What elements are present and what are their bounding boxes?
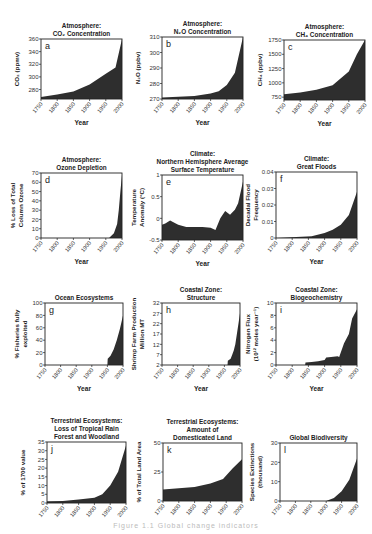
y-tick-label: 340 [28, 49, 39, 55]
y-tick-label: 60 [32, 179, 39, 185]
panel-letter: c [288, 42, 293, 52]
y-tick-label: 10 [32, 226, 39, 232]
y-tick-label: 32 [153, 300, 160, 306]
y-tick-label: 310 [149, 34, 160, 40]
data-area [284, 40, 365, 100]
y-tick-label: 1 [156, 172, 160, 178]
x-tick-label: 2000 [232, 503, 245, 516]
chart-title: Coastal Zone: [180, 286, 222, 293]
panel-letter: f [280, 174, 283, 184]
x-axis-label: Year [196, 260, 210, 267]
x-axis-label: Year [77, 385, 91, 392]
x-axis-label: Year [310, 385, 324, 392]
y-tick-label: 20 [38, 465, 45, 471]
y-tick-label: 30 [271, 440, 278, 446]
chart-title: Global Biodiversity [289, 434, 348, 442]
panel-letter: e [166, 177, 171, 187]
x-axis-label: Year [75, 258, 89, 265]
x-tick-label: 1900 [80, 101, 93, 114]
chart-title: Atmosphere: [183, 20, 222, 28]
y-tick-label: 27 [153, 311, 160, 317]
y-tick-label: 290 [149, 65, 160, 71]
x-tick-label: 1950 [331, 367, 344, 380]
x-tick-label: 1850 [185, 503, 198, 516]
x-tick-label: 2000 [112, 101, 125, 114]
y-axis-label: (10¹² moles year⁻¹) [252, 307, 259, 362]
y-axis-label: exploited [21, 320, 28, 347]
y-tick-label: 750 [271, 94, 282, 100]
y-tick-label: 7 [156, 352, 160, 358]
y-tick-label: 10 [271, 479, 278, 485]
y-tick-label: 40 [32, 198, 39, 204]
y-tick-label: 25 [38, 457, 45, 463]
chart-title: Forest and Woodland [54, 433, 119, 440]
panel-letter: l [284, 445, 286, 455]
y-tick-label: 0.03 [262, 186, 274, 192]
x-tick-label: 1950 [216, 503, 229, 516]
chart-title: Northern Hemisphere Average [157, 158, 249, 166]
y-axis-label: Column Ozone [17, 183, 24, 227]
x-tick-label: 2000 [347, 240, 360, 253]
y-tick-label: 40 [36, 337, 43, 343]
x-tick-label: 1900 [80, 240, 93, 253]
x-tick-label: 1900 [316, 503, 329, 516]
y-tick-label: 6 [270, 325, 274, 331]
data-area [276, 309, 357, 365]
y-tick-label: 300 [28, 74, 39, 80]
x-tick-label: 1900 [315, 240, 328, 253]
chart-title: Domesticated Land [173, 434, 232, 441]
x-tick-label: 1900 [201, 101, 214, 114]
chart-title: CH₄ Concentration [296, 31, 353, 38]
x-tick-label: 1800 [169, 503, 182, 516]
y-tick-label: 20 [32, 217, 39, 223]
x-tick-label: 1750 [152, 101, 165, 114]
y-tick-label: 50 [32, 189, 39, 195]
y-tick-label: 280 [149, 81, 160, 87]
chart-panel-a: Atmosphere:CO₂ Concentrationa28030032034… [13, 22, 125, 126]
x-tick-label: 1900 [201, 242, 214, 255]
x-tick-label: 1750 [37, 505, 50, 518]
x-tick-label: 1750 [266, 367, 279, 380]
chart-title: Surface Temperature [171, 166, 235, 174]
x-tick-label: 1800 [286, 503, 299, 516]
y-tick-label: 50 [154, 440, 161, 446]
x-tick-label: 1800 [168, 242, 181, 255]
x-tick-label: 1750 [266, 240, 279, 253]
x-tick-label: 1850 [69, 505, 82, 518]
chart-panel-e: Climate:Northern Hemisphere AverageSurfa… [130, 150, 249, 267]
x-tick-label: 1850 [185, 101, 198, 114]
data-area [276, 192, 357, 238]
y-tick-label: 0.02 [262, 202, 274, 208]
y-tick-label: 360 [28, 36, 39, 42]
x-axis-label: Year [75, 119, 89, 126]
y-tick-label: 100 [32, 300, 43, 306]
y-tick-label: 30 [38, 448, 45, 454]
x-tick-label: 1800 [51, 367, 64, 380]
chart-title: Terrestrial Ecosystems: [167, 418, 239, 426]
y-tick-label: 22 [153, 321, 160, 327]
panel-letter: j [50, 444, 53, 454]
panel-letter: a [45, 41, 50, 51]
x-axis-label: Year [318, 120, 332, 127]
y-tick-label: 1000 [268, 80, 282, 86]
data-area [162, 313, 240, 365]
y-axis-label: (thousand) [256, 456, 263, 488]
x-tick-label: 1950 [96, 240, 109, 253]
plot-frame [41, 173, 122, 238]
chart-title: Loss of Tropical Rain [54, 425, 119, 433]
x-tick-label: 1850 [185, 242, 198, 255]
y-tick-label: 320 [28, 61, 39, 67]
chart-title: Structure [187, 294, 216, 301]
chart-panel-l: Global Biodiversityl01020301750180018501… [248, 434, 360, 516]
plot-frame [162, 303, 240, 365]
x-tick-label: 1850 [66, 367, 79, 380]
x-tick-label: 2000 [112, 240, 125, 253]
chart-panel-g: Ocean Ecosystemsg02040608010017501800185… [13, 294, 126, 392]
x-tick-label: 1750 [153, 503, 166, 516]
x-tick-label: 2000 [116, 505, 129, 518]
x-tick-label: 1800 [282, 367, 295, 380]
x-tick-label: 1950 [96, 101, 109, 114]
y-tick-label: 70 [32, 170, 39, 176]
data-area [41, 39, 122, 99]
x-tick-label: 1800 [282, 240, 295, 253]
